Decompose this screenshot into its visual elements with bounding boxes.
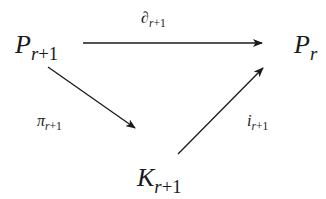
node-base: K <box>137 163 154 192</box>
arrow-right-diagonal <box>178 68 263 154</box>
label-subscript: r+1 <box>45 120 62 132</box>
node-subscript: r+1 <box>31 43 58 64</box>
node-p-r-plus-1: Pr+1 <box>15 32 58 63</box>
node-p-r: Pr <box>294 32 317 63</box>
label-subscript: r+1 <box>251 120 268 132</box>
node-base: P <box>15 30 31 59</box>
label-base: π <box>37 112 45 129</box>
node-k-r-plus-1: Kr+1 <box>137 165 182 196</box>
commutative-diagram: Pr+1 Pr Kr+1 ∂r+1 πr+1 ir+1 <box>0 0 326 199</box>
node-subscript: r <box>310 43 317 64</box>
label-projection-map: πr+1 <box>37 113 62 133</box>
node-base: P <box>294 30 310 59</box>
label-boundary-map: ∂r+1 <box>141 10 166 30</box>
label-subscript: r+1 <box>149 17 166 29</box>
label-inclusion-map: ir+1 <box>247 113 268 133</box>
node-subscript: r+1 <box>154 176 181 197</box>
label-base: ∂ <box>141 9 149 26</box>
